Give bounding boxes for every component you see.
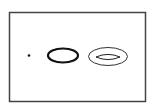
outer-thin-ellipse [89, 48, 128, 66]
inner-lens-shape [96, 54, 120, 59]
dot-point [28, 54, 31, 57]
diagram-canvas [0, 0, 155, 112]
thick-ellipse [48, 49, 78, 63]
diagram-svg [0, 0, 155, 112]
